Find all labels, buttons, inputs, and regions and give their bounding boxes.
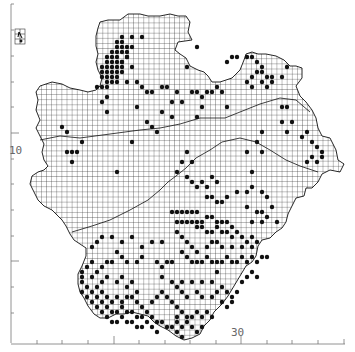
record-dot (155, 295, 159, 299)
record-dot (240, 235, 244, 239)
record-dot (95, 285, 99, 289)
record-dot (120, 240, 124, 244)
record-dot (260, 150, 264, 154)
record-dot (185, 315, 189, 319)
record-dot (135, 315, 139, 319)
record-dot (170, 115, 174, 119)
record-dot (120, 300, 124, 304)
record-dot (215, 85, 219, 89)
record-dot (230, 295, 234, 299)
record-dot (105, 60, 109, 64)
record-dot (160, 85, 164, 89)
record-dot (175, 230, 179, 234)
record-dot (175, 285, 179, 289)
record-dot (125, 260, 129, 264)
record-dot (95, 240, 99, 244)
record-dot (130, 140, 134, 144)
left-axis (11, 4, 19, 343)
record-dot (175, 320, 179, 324)
record-dot (265, 195, 269, 199)
record-dot (180, 220, 184, 224)
record-dot (145, 310, 149, 314)
record-dot (120, 305, 124, 309)
record-dot (160, 110, 164, 114)
left-axis-label: 10 (9, 144, 22, 157)
record-dot (80, 275, 84, 279)
record-dot (170, 280, 174, 284)
record-dot (185, 210, 189, 214)
record-dot (220, 230, 224, 234)
record-dot (200, 315, 204, 319)
record-dot (130, 295, 134, 299)
record-dot (320, 155, 324, 159)
record-dot (110, 310, 114, 314)
record-dot (155, 320, 159, 324)
record-dot (260, 190, 264, 194)
record-dot (175, 330, 179, 334)
record-dot (190, 210, 194, 214)
record-dot (230, 55, 234, 59)
record-dot (190, 260, 194, 264)
record-dot (225, 105, 229, 109)
record-dot (130, 65, 134, 69)
record-dot (115, 310, 119, 314)
record-dot (95, 270, 99, 274)
record-dot (300, 135, 304, 139)
record-dot (100, 100, 104, 104)
county-grid (0, 0, 355, 352)
record-dot (140, 305, 144, 309)
record-dot (250, 170, 254, 174)
record-dot (85, 285, 89, 289)
record-dot (260, 255, 264, 259)
record-dot (210, 215, 214, 219)
record-dot (215, 290, 219, 294)
record-dot (210, 90, 214, 94)
record-dot (120, 70, 124, 74)
record-dot (185, 295, 189, 299)
record-dot (125, 285, 129, 289)
record-dot (125, 80, 129, 84)
record-dot (105, 110, 109, 114)
record-dot (200, 280, 204, 284)
record-dot (280, 105, 284, 109)
record-dot (210, 195, 214, 199)
record-dot (265, 255, 269, 259)
record-dot (120, 45, 124, 49)
record-dot (120, 35, 124, 39)
record-dot (170, 100, 174, 104)
record-dot (110, 300, 114, 304)
record-dot (150, 325, 154, 329)
record-dot (135, 325, 139, 329)
record-dot (240, 245, 244, 249)
record-dot (135, 105, 139, 109)
record-dot (180, 235, 184, 239)
record-dot (210, 260, 214, 264)
record-dot (200, 105, 204, 109)
record-dot (80, 270, 84, 274)
record-dot (245, 55, 249, 59)
record-dot (210, 240, 214, 244)
record-dot (215, 240, 219, 244)
record-dot (190, 90, 194, 94)
record-dot (160, 290, 164, 294)
record-dot (135, 260, 139, 264)
record-dot (130, 280, 134, 284)
record-dot (130, 320, 134, 324)
record-dot (320, 150, 324, 154)
record-dot (230, 260, 234, 264)
record-dot (90, 245, 94, 249)
record-dot (135, 290, 139, 294)
record-dot (170, 325, 174, 329)
record-dot (245, 240, 249, 244)
record-dot (255, 260, 259, 264)
record-dot (235, 230, 239, 234)
record-dot (225, 255, 229, 259)
record-dot (110, 65, 114, 69)
record-dot (260, 210, 264, 214)
record-dot (180, 250, 184, 254)
record-dot (140, 325, 144, 329)
record-dot (270, 205, 274, 209)
record-dot (130, 310, 134, 314)
record-dot (215, 220, 219, 224)
record-dot (115, 50, 119, 54)
